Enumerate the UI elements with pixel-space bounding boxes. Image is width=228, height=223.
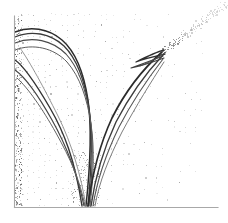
curve-caustic-left-arc-1 <box>15 29 90 206</box>
curve-caustic-right-branch-2 <box>91 55 163 206</box>
plot-axes <box>15 16 219 208</box>
dotted-trail <box>162 2 227 53</box>
caustic-plot <box>0 0 228 223</box>
curve-caustic-left-steep-3 <box>17 78 85 206</box>
caustic-curves <box>15 29 166 206</box>
curve-caustic-left-arc-2 <box>15 33 91 206</box>
curve-caustic-right-branch-3 <box>93 59 163 206</box>
figure-root <box>0 0 228 223</box>
